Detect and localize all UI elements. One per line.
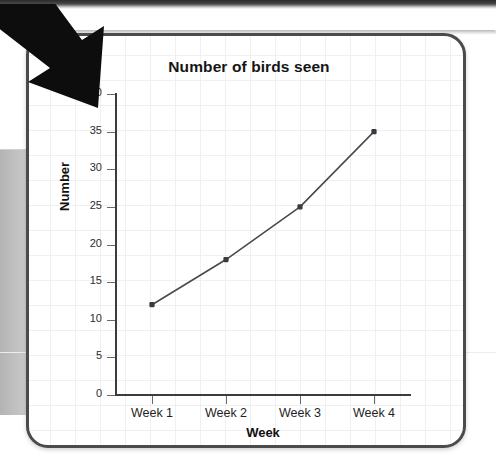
chart-card: Number of birds seen 0510152025303540 We…	[26, 33, 466, 448]
y-axis-title: Number	[57, 162, 72, 211]
data-point-marker	[149, 302, 154, 307]
data-point-marker	[297, 204, 302, 209]
page-top-edge-band	[0, 0, 496, 9]
page-background: Number of birds seen 0510152025303540 We…	[0, 0, 496, 473]
series-line	[152, 132, 374, 305]
data-point-marker	[371, 129, 376, 134]
series-line-chart	[29, 36, 466, 448]
data-point-marker	[223, 257, 228, 262]
plot-area: 0510152025303540 Week 1Week 2Week 3Week …	[29, 36, 466, 448]
x-axis-title: Week	[115, 425, 411, 440]
